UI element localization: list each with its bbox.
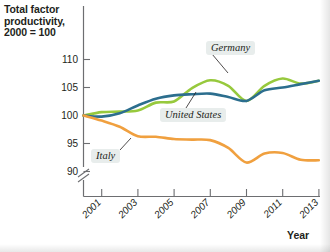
series-label-united-states: United States bbox=[160, 108, 226, 122]
x-tick-label: 2001 bbox=[79, 197, 103, 221]
leader-line-germany bbox=[212, 54, 228, 73]
x-tick-label: 2005 bbox=[151, 196, 176, 221]
y-tick-label: 105 bbox=[61, 82, 78, 93]
y-axis-tick-labels: 110 105 100 95 90 bbox=[61, 54, 78, 177]
series-label-italy: Italy bbox=[91, 149, 120, 163]
y-tick-label: 90 bbox=[67, 166, 79, 177]
x-tick-label: 2013 bbox=[296, 196, 321, 221]
x-axis-title: Year bbox=[287, 229, 309, 241]
x-tick-label: 2009 bbox=[224, 196, 249, 221]
y-tick-label: 110 bbox=[62, 54, 78, 65]
series-label-germany: Germany bbox=[206, 41, 255, 55]
y-tick-label: 95 bbox=[67, 138, 79, 149]
x-tick-label: 2007 bbox=[187, 196, 212, 221]
leader-line-italy bbox=[120, 138, 131, 150]
x-axis-tick-labels: 2001 2003 2005 2007 2009 2011 2013 bbox=[79, 196, 321, 221]
y-tick-label: 100 bbox=[61, 110, 78, 121]
x-axis-ticks bbox=[102, 189, 319, 197]
chart-figure: Total factor productivity, 2000 = 100 11… bbox=[0, 0, 330, 252]
chart-plot-area: 110 105 100 95 90 2001 2003 2005 2007 20… bbox=[0, 0, 330, 252]
x-tick-label: 2003 bbox=[115, 196, 140, 221]
axes bbox=[78, 6, 320, 197]
x-tick-label: 2011 bbox=[260, 197, 284, 221]
